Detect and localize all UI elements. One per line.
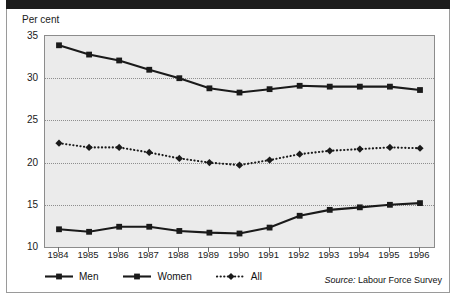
x-tick-label: 1987: [138, 249, 159, 260]
data-point: [176, 228, 182, 234]
data-point: [116, 224, 122, 230]
data-point: [176, 75, 182, 81]
data-point: [357, 204, 363, 210]
source-label: Source:: [324, 275, 355, 285]
data-point: [116, 144, 123, 151]
data-point: [56, 226, 62, 232]
series-women: [56, 200, 423, 236]
data-point: [86, 229, 92, 235]
data-point: [356, 145, 363, 152]
x-tick-label: 1988: [168, 249, 189, 260]
x-tick-label: 1996: [408, 249, 429, 260]
data-point: [296, 151, 303, 158]
source-text: Labour Force Survey: [358, 275, 442, 285]
x-tick-label: 1995: [378, 249, 399, 260]
data-point: [417, 200, 423, 206]
data-point: [146, 149, 153, 156]
legend-swatch-square-icon: [44, 271, 74, 282]
data-point: [327, 207, 333, 213]
data-point: [86, 52, 92, 58]
data-point: [267, 86, 273, 92]
data-point: [417, 87, 423, 93]
x-tick-label: 1990: [228, 249, 249, 260]
data-point: [176, 155, 183, 162]
y-tick-label: 10: [18, 241, 38, 252]
legend-item-men[interactable]: Men: [44, 271, 98, 282]
x-tick-label: 1992: [288, 249, 309, 260]
data-point: [297, 213, 303, 219]
series-all: [55, 140, 423, 169]
data-point: [55, 140, 62, 147]
x-tick-label: 1984: [47, 249, 68, 260]
data-point: [267, 225, 273, 231]
x-tick-label: 1985: [78, 249, 99, 260]
data-point: [416, 145, 423, 152]
data-point: [56, 42, 62, 48]
x-tick-label: 1994: [348, 249, 369, 260]
x-tick-label: 1993: [318, 249, 339, 260]
source-note: Source: Labour Force Survey: [324, 275, 442, 285]
data-point: [266, 156, 273, 163]
y-tick-label: 20: [18, 156, 38, 167]
data-point: [146, 224, 152, 230]
y-tick-label: 25: [18, 114, 38, 125]
legend-label: Women: [157, 271, 191, 282]
x-axis-tick-labels: 1984198519861987198819891990199119921993…: [44, 249, 433, 265]
series-line: [59, 203, 420, 233]
data-point: [357, 84, 363, 90]
data-point: [206, 159, 213, 166]
y-axis-unit-label: Per cent: [22, 14, 59, 25]
data-point: [237, 90, 243, 96]
data-point: [116, 58, 122, 64]
legend-swatch-square-icon: [122, 271, 152, 282]
legend-item-women[interactable]: Women: [122, 271, 191, 282]
y-tick-label: 15: [18, 198, 38, 209]
series-layer: [45, 36, 434, 247]
x-tick-label: 1991: [258, 249, 279, 260]
x-tick-label: 1986: [108, 249, 129, 260]
title-banner: [6, 0, 450, 9]
data-point: [387, 84, 393, 90]
data-point: [297, 83, 303, 89]
chart-legend: MenWomenAll: [44, 269, 262, 283]
legend-label: All: [251, 271, 262, 282]
data-point: [237, 231, 243, 237]
data-point: [386, 144, 393, 151]
data-point: [207, 85, 213, 91]
plot-area: [44, 35, 435, 248]
data-point: [327, 84, 333, 90]
y-tick-label: 30: [18, 72, 38, 83]
legend-item-all[interactable]: All: [216, 271, 262, 282]
data-point: [326, 147, 333, 154]
series-line: [59, 45, 420, 92]
y-tick-label: 35: [18, 30, 38, 41]
data-point: [236, 162, 243, 169]
series-men: [56, 42, 423, 95]
x-tick-label: 1989: [198, 249, 219, 260]
legend-label: Men: [79, 271, 98, 282]
legend-swatch-diamond-icon: [216, 271, 246, 282]
data-point: [207, 230, 213, 236]
data-point: [85, 144, 92, 151]
figure-container: Per cent 101520253035 198419851986198719…: [0, 0, 458, 298]
y-axis-tick-labels: 101520253035: [16, 35, 38, 246]
data-point: [387, 202, 393, 208]
data-point: [146, 67, 152, 73]
